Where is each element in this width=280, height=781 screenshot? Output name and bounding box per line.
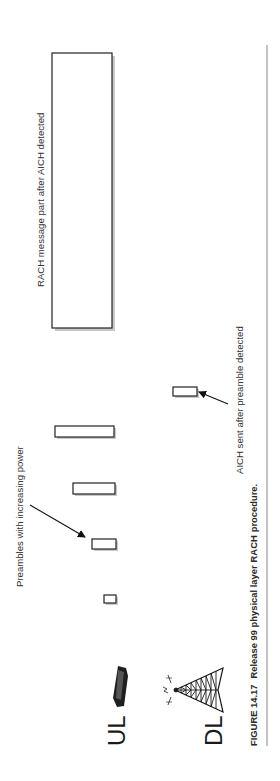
preambles-arrow <box>30 505 85 537</box>
preamble-block-3 <box>73 483 117 496</box>
rach-message-block <box>52 53 115 331</box>
base-station-tower-icon <box>163 668 223 712</box>
dl-label: DL <box>200 715 227 746</box>
rach-procedure-diagram: RACH message part after AICH detected Pr… <box>0 0 280 781</box>
preamble-block-4 <box>55 426 116 439</box>
mobile-phone-icon <box>113 666 128 707</box>
preamble-block-1 <box>104 595 118 605</box>
rach-message-label: RACH message part after AICH detected <box>35 113 46 287</box>
caption-label: FIGURE 14.17 <box>248 685 259 746</box>
aich-arrow <box>199 392 228 404</box>
preambles-label: Preambles with increasing power <box>14 445 25 587</box>
aich-label: AICH sent after preamble detected <box>234 326 245 474</box>
caption-bold: RACH <box>248 535 259 562</box>
ul-label: UL <box>103 715 130 746</box>
aich-block <box>173 387 199 398</box>
figure-caption: FIGURE 14.17Release 99 physical layerRAC… <box>248 484 259 746</box>
preamble-block-2 <box>92 539 118 551</box>
caption-text: Release 99 physical layer <box>248 565 259 678</box>
caption-end: procedure. <box>248 484 259 532</box>
